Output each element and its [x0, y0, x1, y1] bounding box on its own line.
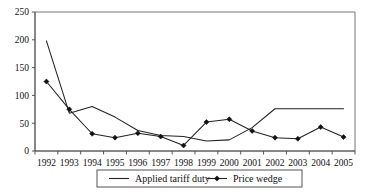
x-tick-label: 1994 — [83, 158, 102, 168]
x-tick-label: 1998 — [174, 158, 193, 168]
x-tick-label: 1996 — [128, 158, 147, 168]
x-axis-tick-labels: 1992199319941995199619971998199920002001… — [37, 158, 353, 168]
y-tick-label: 50 — [20, 119, 30, 129]
x-tick-label: 2000 — [220, 158, 239, 168]
x-tick-label: 2004 — [311, 158, 330, 168]
plot-frame — [35, 12, 355, 151]
x-tick-label: 1993 — [60, 158, 79, 168]
legend-label-1: Applied tariff duty — [135, 173, 210, 184]
legend-label-2: Price wedge — [233, 173, 283, 184]
chart-container: 050100150200250 199219931994199519961997… — [0, 0, 371, 194]
x-axis-ticks — [35, 151, 355, 155]
x-tick-label: 1999 — [197, 158, 216, 168]
y-tick-label: 0 — [24, 146, 29, 156]
x-tick-label: 2002 — [266, 158, 285, 168]
x-tick-label: 2003 — [288, 158, 307, 168]
x-tick-label: 1992 — [37, 158, 56, 168]
x-tick-label: 2001 — [243, 158, 262, 168]
y-axis-ticks — [32, 12, 35, 151]
y-tick-label: 200 — [15, 35, 30, 45]
plot-background — [35, 12, 355, 151]
y-tick-label: 100 — [15, 91, 30, 101]
x-tick-label: 1995 — [106, 158, 125, 168]
x-tick-label: 1997 — [151, 158, 170, 168]
y-axis-tick-labels: 050100150200250 — [15, 7, 30, 156]
x-tick-label: 2005 — [334, 158, 353, 168]
y-tick-label: 150 — [15, 63, 30, 73]
chart-legend: Applied tariff dutyPrice wedge — [97, 170, 302, 187]
line-chart: 050100150200250 199219931994199519961997… — [0, 0, 371, 194]
y-tick-label: 250 — [15, 7, 30, 17]
